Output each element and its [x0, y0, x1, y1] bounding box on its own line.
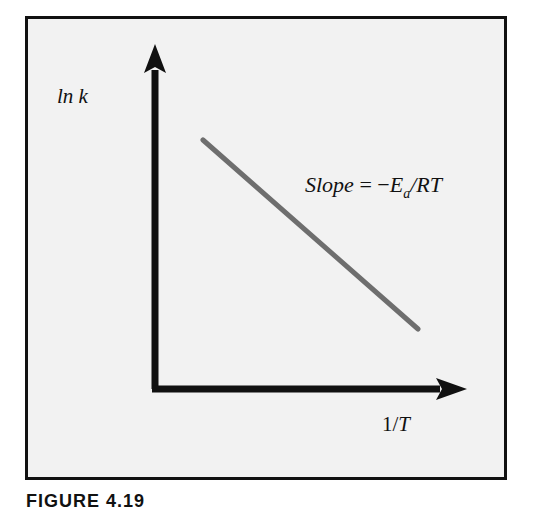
slope-word: Slope	[305, 172, 354, 197]
data-line	[203, 140, 418, 329]
x-axis-label-T: T	[398, 412, 410, 436]
equals-sign: =	[354, 172, 377, 197]
y-axis-label-ln: ln	[57, 84, 73, 108]
x-axis-label-num: 1/	[382, 412, 398, 436]
x-axis-label: 1/T	[382, 414, 410, 435]
y-axis-label: ln k	[57, 86, 88, 107]
y-axis-label-k: k	[79, 84, 88, 108]
activation-energy-symbol: E	[390, 172, 403, 197]
x-axis-arrow-icon	[436, 378, 467, 400]
slope-annotation: Slope = −Ea/RT	[305, 174, 442, 201]
figure-caption: FIGURE 4.19	[26, 491, 145, 511]
rt-denominator: /RT	[410, 172, 442, 197]
minus-sign: −	[377, 172, 389, 197]
y-axis-arrow-icon	[144, 44, 166, 73]
